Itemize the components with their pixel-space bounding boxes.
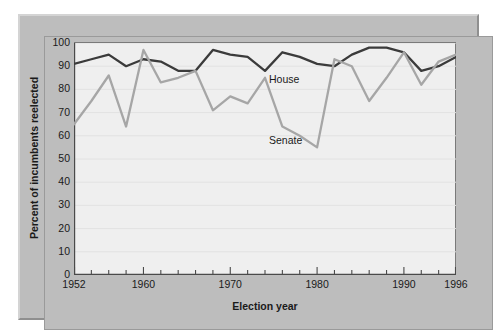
x-axis-title: Election year — [74, 300, 456, 312]
x-axis-tick-labels: 195219601970198019901996 — [74, 278, 456, 292]
x-axis-tick-label: 1960 — [132, 278, 155, 290]
series-label-house: House — [269, 73, 299, 85]
series-label-senate: Senate — [269, 134, 302, 146]
y-axis-tick-label: 80 — [44, 83, 70, 93]
plot-svg — [74, 43, 456, 275]
x-axis-tick-label: 1990 — [392, 278, 415, 290]
y-axis-tick-label: 10 — [44, 246, 70, 256]
data-series — [74, 48, 456, 148]
y-axis-tick-label: 90 — [44, 60, 70, 70]
x-axis-tick-label: 1952 — [62, 278, 85, 290]
figure: Percent of incumbents reelected 01020304… — [0, 0, 497, 335]
y-axis-tick-label: 100 — [44, 37, 70, 47]
y-axis-tick-labels: 0102030405060708090100 — [44, 42, 70, 274]
x-axis-ticks — [75, 267, 456, 275]
y-axis-tick-label: 50 — [44, 153, 70, 163]
x-axis-tick-label: 1980 — [305, 278, 328, 290]
y-axis-tick-label: 30 — [44, 199, 70, 209]
x-axis-tick-label: 1970 — [219, 278, 242, 290]
y-axis-tick-label: 70 — [44, 107, 70, 117]
y-axis-tick-label: 40 — [44, 176, 70, 186]
y-axis-tick-label: 20 — [44, 223, 70, 233]
y-axis-tick-label: 60 — [44, 130, 70, 140]
x-axis-tick-label: 1996 — [444, 278, 467, 290]
gridlines — [75, 43, 456, 252]
plot-area: House Senate — [74, 42, 456, 274]
y-axis-title: Percent of incumbents reelected — [28, 42, 40, 274]
